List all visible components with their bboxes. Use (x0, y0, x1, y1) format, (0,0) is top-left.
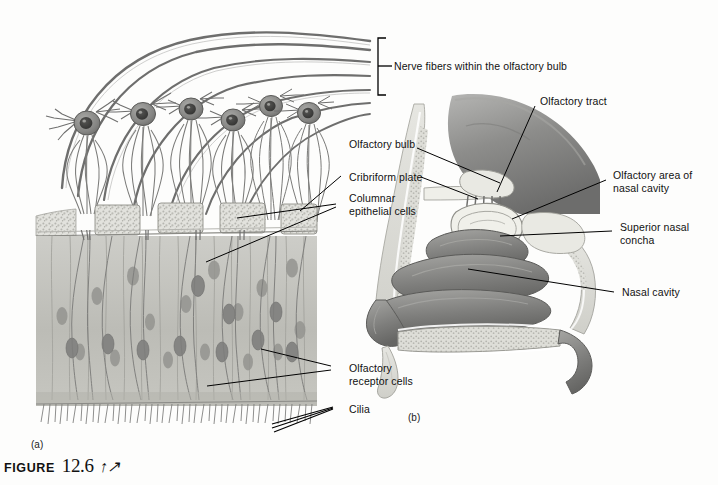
hard-palate (398, 326, 560, 352)
label-olfactory-tract: Olfactory tract (540, 95, 607, 108)
olfactory-epithelium (36, 210, 317, 406)
soft-palate (558, 330, 592, 394)
label-nerve-fibers: Nerve fibers within the olfactory bulb (394, 60, 567, 73)
label-cribriform-plate: Cribriform plate (349, 171, 422, 184)
anatomy-person-glyph-icon: ↑↗ (98, 457, 123, 476)
neuron-4 (198, 103, 266, 220)
figure-word: Figure (4, 461, 55, 475)
figure-caption: Figure 12.6 ↑↗ (4, 455, 121, 477)
panel-tag-b: (b) (408, 412, 420, 423)
label-columnar-epithelial-cells: Columnar epithelial cells (349, 192, 416, 217)
neuron-2 (108, 93, 176, 216)
neuron-1 (46, 99, 120, 214)
label-olfactory-receptor-cells: Olfactory receptor cells (349, 362, 413, 387)
label-olfactory-area-nasal-cavity: Olfactory area of nasal cavity (613, 169, 692, 194)
leader-cilia-2 (272, 408, 333, 428)
panel-a-artwork (36, 32, 370, 424)
figure-page: Nerve fibers within the olfactory bulb O… (0, 0, 718, 485)
label-olfactory-bulb: Olfactory bulb (349, 138, 415, 151)
label-superior-nasal-concha: Superior nasal concha (620, 221, 689, 246)
label-cilia: Cilia (349, 403, 370, 416)
cilia-fringe (41, 404, 312, 424)
panel-tag-a: (a) (31, 439, 43, 450)
figure-number: 12.6 (62, 455, 94, 477)
olfactory-receptor-neuron-row (46, 89, 334, 222)
neuron-3 (156, 92, 224, 218)
label-nasal-cavity: Nasal cavity (622, 286, 680, 299)
